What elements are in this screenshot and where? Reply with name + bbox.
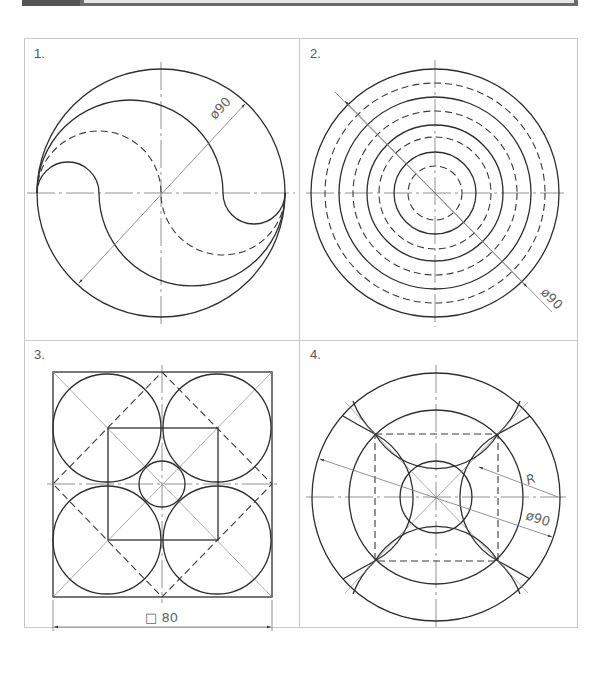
- panel-1-dimension: ø90: [206, 94, 234, 122]
- panel-4-diameter-dimension: ø90: [524, 508, 552, 530]
- panel-3-dimension: □ 80: [145, 610, 178, 625]
- panel-1-drawing: ø90: [27, 62, 295, 326]
- panel-3-drawing: □ 80: [47, 365, 278, 631]
- technical-drawings: ø90 ø90 □ 80: [0, 0, 603, 675]
- panel-2-dimension: ø90: [538, 285, 566, 313]
- panel-4-drawing: R ø90: [306, 365, 566, 630]
- panel-2-drawing: ø90: [306, 60, 566, 327]
